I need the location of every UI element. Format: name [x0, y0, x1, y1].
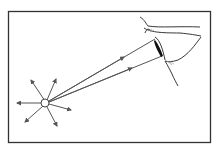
eye-icon: [140, 17, 201, 86]
light-source: [41, 99, 49, 107]
rays-to-eye: [49, 39, 162, 102]
diagram-canvas: [0, 0, 217, 149]
